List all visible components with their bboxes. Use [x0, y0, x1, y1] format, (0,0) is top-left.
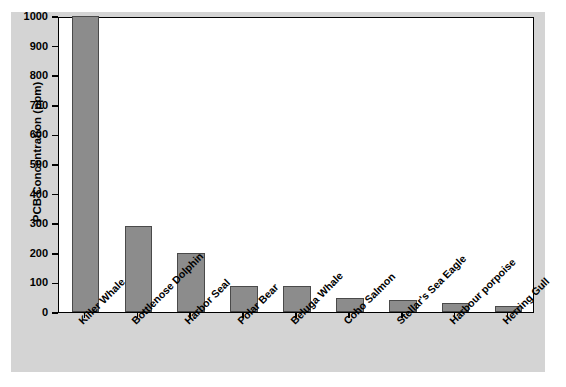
y-tick-label: 1000	[8, 11, 48, 22]
plot-area	[58, 17, 534, 313]
bar-killer-whale	[72, 16, 100, 312]
y-tick-label: 300	[8, 218, 48, 229]
y-tick-label: 200	[8, 248, 48, 259]
y-tick-label: 900	[8, 41, 48, 52]
chart-figure: PCB Concentration (ppm) 0100200300400500…	[0, 0, 566, 387]
y-tick-label: 400	[8, 189, 48, 200]
y-tick-label: 800	[8, 70, 48, 81]
y-tick-label: 100	[8, 277, 48, 288]
bars-container	[59, 18, 533, 312]
y-tick-label: 0	[8, 307, 48, 318]
y-tick-label: 500	[8, 159, 48, 170]
y-tick-label: 700	[8, 100, 48, 111]
y-tick-label: 600	[8, 129, 48, 140]
